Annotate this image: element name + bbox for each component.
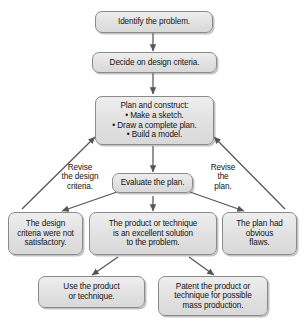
node-outcome-design-criteria-unsatisfactory[interactable]: The design criteria were not satisfactor… xyxy=(8,212,83,255)
node-outcome-right-label: The plan had obvious flaws. xyxy=(233,219,286,248)
edge-label-revise-the-plan: Revise the plan. xyxy=(199,163,247,191)
node-decide-label: Decide on design criteria. xyxy=(107,58,203,68)
edge-label-revise-design-criteria: Revise the design criteria. xyxy=(50,163,110,191)
node-evaluate-the-plan[interactable]: Evaluate the plan. xyxy=(112,173,193,193)
node-action-right-label: Patent the product or technique for poss… xyxy=(171,282,254,311)
node-identify-the-problem[interactable]: Identify the problem. xyxy=(95,11,213,33)
node-identify-label: Identify the problem. xyxy=(115,17,193,27)
arrow-outcome-center-to-action-left xyxy=(92,257,118,275)
flowchart-diagram: Identify the problem. Decide on design c… xyxy=(0,0,306,327)
node-action-use-the-product[interactable]: Use the product or technique. xyxy=(38,276,145,308)
node-action-left-label: Use the product or technique. xyxy=(60,282,122,301)
node-outcome-left-label: The design criteria were not satisfactor… xyxy=(14,219,77,248)
arrow-outcome-center-to-action-right xyxy=(189,257,214,275)
node-plan-and-construct[interactable]: Plan and construct: • Make a sketch. • D… xyxy=(95,96,214,145)
node-plan-label: Plan and construct: • Make a sketch. • D… xyxy=(109,101,199,139)
node-decide-on-design-criteria[interactable]: Decide on design criteria. xyxy=(92,52,217,73)
arrow-evaluate-to-outcome-left xyxy=(62,192,117,211)
node-action-patent-the-product[interactable]: Patent the product or technique for poss… xyxy=(158,276,268,316)
node-outcome-obvious-flaws[interactable]: The plan had obvious flaws. xyxy=(222,212,297,255)
node-outcome-center-label: The product or technique is an excellent… xyxy=(106,219,201,248)
node-outcome-excellent-solution[interactable]: The product or technique is an excellent… xyxy=(89,212,217,255)
node-evaluate-label: Evaluate the plan. xyxy=(118,178,188,188)
arrow-evaluate-to-outcome-right xyxy=(190,192,244,211)
